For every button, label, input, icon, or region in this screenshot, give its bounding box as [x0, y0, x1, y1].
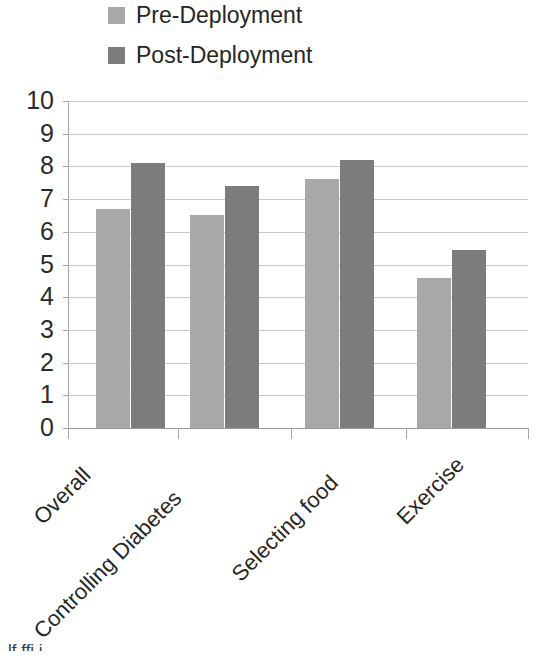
x-axis-label-selecting-food: Selecting food: [228, 471, 342, 585]
bar-pre-deployment-exercise[interactable]: [417, 278, 451, 428]
category-separator-4: [528, 428, 529, 439]
bar-pre-deployment-overall[interactable]: [96, 209, 130, 428]
legend-item-pre-deployment[interactable]: Pre-Deployment: [108, 4, 302, 27]
y-axis-label-5: 5: [0, 252, 54, 277]
category-separator-1: [178, 428, 179, 439]
y-axis-label-1: 1: [0, 382, 54, 407]
legend-label-pre-deployment: Pre-Deployment: [136, 4, 302, 27]
y-axis-label-4: 4: [0, 284, 54, 309]
bar-post-deployment-overall[interactable]: [131, 163, 165, 428]
y-axis-label-8: 8: [0, 153, 54, 178]
y-axis-label-6: 6: [0, 219, 54, 244]
bar-post-deployment-exercise[interactable]: [452, 250, 486, 428]
y-axis-label-2: 2: [0, 350, 54, 375]
gridline-0: [68, 428, 528, 429]
bar-pre-deployment-selecting-food[interactable]: [305, 179, 339, 428]
bar-post-deployment-controlling-diabetes[interactable]: [225, 186, 259, 428]
y-axis-label-0: 0: [0, 415, 54, 440]
legend-swatch-post-deployment-icon: [108, 47, 125, 64]
legend-item-post-deployment[interactable]: Post-Deployment: [108, 44, 312, 67]
legend-swatch-pre-deployment-icon: [108, 7, 125, 24]
category-separator-2: [291, 428, 292, 439]
y-axis-label-3: 3: [0, 317, 54, 342]
bar-post-deployment-selecting-food[interactable]: [340, 160, 374, 428]
category-separator-3: [406, 428, 407, 439]
plot-area: [68, 101, 528, 428]
chart-legend: Pre-Deployment Post-Deployment: [0, 0, 539, 84]
x-axis-label-exercise: Exercise: [393, 453, 468, 528]
category-separator-0: [68, 428, 69, 439]
clipped-caption: lf ffi i: [8, 642, 43, 651]
gridline-9: [68, 134, 528, 135]
y-axis-label-9: 9: [0, 121, 54, 146]
y-axis-label-7: 7: [0, 186, 54, 211]
y-axis-label-10: 10: [0, 88, 54, 113]
bar-pre-deployment-controlling-diabetes[interactable]: [190, 215, 224, 428]
gridline-10: [68, 101, 528, 102]
legend-label-post-deployment: Post-Deployment: [136, 44, 312, 67]
x-axis-label-overall: Overall: [30, 464, 95, 529]
